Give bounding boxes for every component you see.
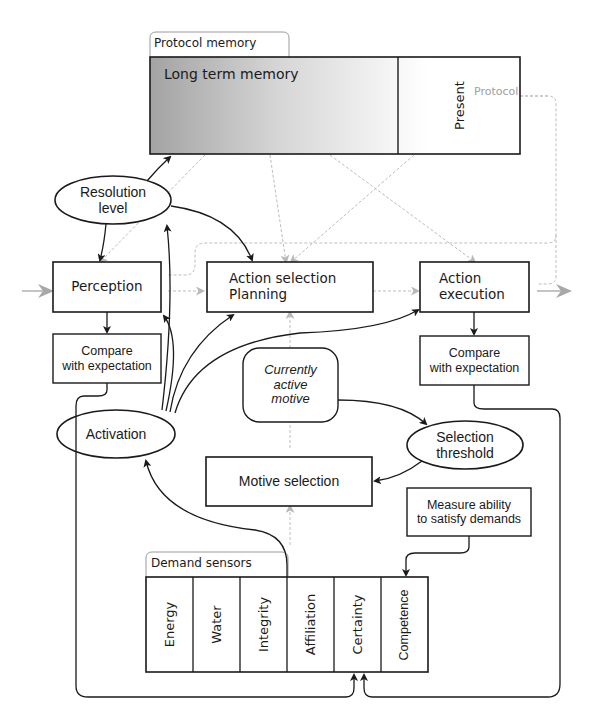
present-label: Present bbox=[452, 81, 467, 130]
action-execution-label: Action execution bbox=[420, 262, 529, 312]
sensor-energy-label: Energy bbox=[162, 602, 177, 648]
sensor-competence-label: Competence bbox=[398, 589, 412, 660]
sensor-competence: Competence bbox=[381, 577, 428, 672]
demand-sensors-label: Demand sensors bbox=[151, 556, 285, 574]
compare-left-label: Compare with expectation bbox=[53, 334, 161, 383]
sensor-energy: Energy bbox=[146, 577, 193, 672]
compare-right-label: Compare with expectation bbox=[420, 336, 529, 385]
present-label-wrap: Present bbox=[398, 57, 520, 154]
protocol-memory-label: Protocol memory bbox=[154, 36, 288, 54]
action-selection-label: Action selection Planning bbox=[207, 262, 373, 312]
sensor-water-label: Water bbox=[209, 605, 224, 643]
protocol-label: Protocol bbox=[474, 85, 554, 101]
selection-threshold-label: Selection threshold bbox=[407, 423, 523, 467]
sensor-integrity: Integrity bbox=[240, 577, 287, 672]
perception-label: Perception bbox=[53, 262, 161, 312]
sensor-certainty-label: Certainty bbox=[350, 594, 365, 654]
currently-active-motive-label: Currently active motive bbox=[243, 348, 338, 422]
activation-label: Activation bbox=[57, 420, 175, 448]
sensor-integrity-label: Integrity bbox=[256, 597, 271, 652]
measure-ability-label: Measure ability to satisfy demands bbox=[407, 488, 531, 536]
long-term-memory-label: Long term memory bbox=[164, 66, 384, 86]
resolution-level-label: Resolution level bbox=[57, 178, 169, 222]
sensor-certainty: Certainty bbox=[334, 577, 381, 672]
sensor-water: Water bbox=[193, 577, 240, 672]
motive-selection-label: Motive selection bbox=[206, 457, 372, 506]
sensor-affiliation-label: Affiliation bbox=[303, 594, 318, 656]
sensor-affiliation: Affiliation bbox=[287, 577, 334, 672]
